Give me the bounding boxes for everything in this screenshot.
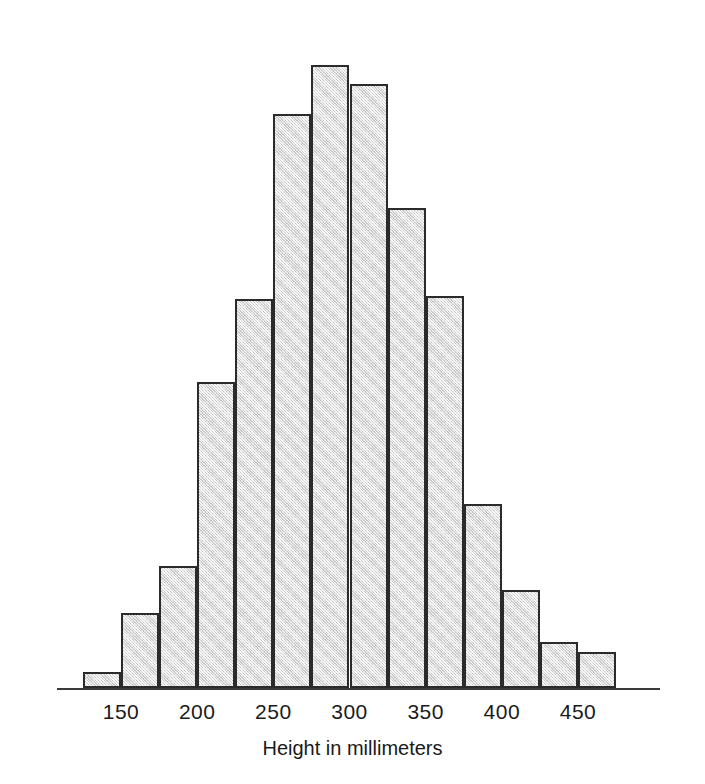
- x-axis-line: [57, 688, 660, 690]
- histogram-bar: [273, 114, 311, 688]
- histogram-bar: [159, 566, 197, 688]
- x-tick-label: 200: [167, 701, 227, 722]
- histogram-bar: [464, 504, 502, 688]
- histogram-bar: [388, 208, 426, 688]
- histogram-bar: [350, 84, 388, 688]
- histogram-bar: [426, 296, 464, 688]
- x-tick-label: 400: [472, 701, 532, 722]
- x-tick-label: 350: [396, 701, 456, 722]
- histogram-bar: [502, 590, 540, 688]
- histogram-bar: [235, 299, 273, 688]
- x-tick-label: 300: [320, 701, 380, 722]
- x-axis-title: Height in millimeters: [0, 736, 705, 760]
- histogram-bar: [83, 672, 121, 688]
- x-tick-label: 450: [548, 701, 608, 722]
- histogram-bar: [121, 613, 159, 688]
- histogram-bar: [540, 642, 578, 688]
- histogram-bar: [197, 382, 235, 688]
- histogram-bar: [578, 652, 616, 688]
- x-tick-label: 250: [243, 701, 303, 722]
- histogram-bar: [311, 65, 349, 688]
- x-tick-label: 150: [91, 701, 151, 722]
- plot-area: [0, 0, 705, 784]
- histogram-figure: 150200250300350400450 Height in millimet…: [0, 0, 705, 784]
